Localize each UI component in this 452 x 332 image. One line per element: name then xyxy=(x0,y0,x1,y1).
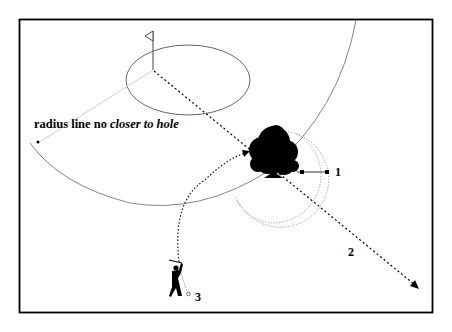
arrow-head-option3 xyxy=(242,150,250,157)
radius-endpoint xyxy=(37,141,40,144)
relief-arc xyxy=(30,20,356,206)
diagram-frame xyxy=(20,20,433,313)
caption-normal-text: radius line no xyxy=(34,117,110,131)
caption-italic-text: closer to hole xyxy=(110,117,179,131)
radius-caption: radius line no closer to hole xyxy=(34,117,179,132)
line-of-play-dotted xyxy=(154,71,415,285)
golf-ball xyxy=(187,292,191,296)
option3-dotted-curve xyxy=(178,153,245,262)
arrow-head-option2 xyxy=(410,280,419,289)
option2-label: 2 xyxy=(348,245,354,260)
option1-label: 1 xyxy=(335,165,341,180)
option1-end-point xyxy=(325,170,329,174)
radius-line xyxy=(38,70,153,143)
flag-icon xyxy=(145,31,153,41)
golf-relief-diagram xyxy=(0,0,452,332)
putting-green xyxy=(126,45,250,115)
option3-label: 3 xyxy=(195,290,201,305)
option1-start-point xyxy=(300,170,304,174)
golfer-icon xyxy=(169,260,187,297)
